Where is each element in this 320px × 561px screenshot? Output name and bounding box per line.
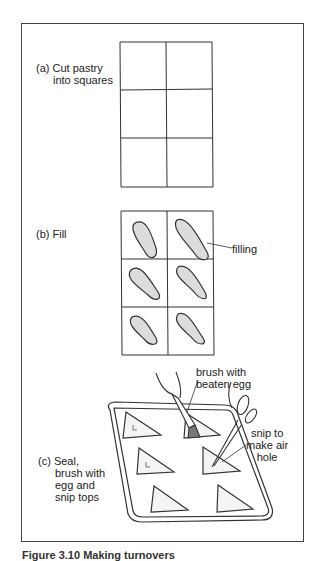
step-a-line2: into squares (36, 74, 113, 86)
snip-leader-line (222, 445, 246, 462)
step-c-line4: snip tops (38, 491, 105, 503)
snip-annotation: snip to make air hole (246, 427, 288, 463)
filling-annotation: filling (232, 243, 257, 255)
step-c-line2: brush with (38, 467, 105, 479)
step-c-line3: egg and (38, 479, 105, 491)
step-c-label: (c) Seal, brush with egg and snip tops (38, 455, 105, 503)
filling-leader-line (207, 243, 232, 248)
step-a-label: (a) Cut pastry into squares (36, 62, 113, 86)
figure-caption: Figure 3.10 Making turnovers (22, 549, 175, 561)
step-c-line1: (c) Seal, (38, 455, 105, 467)
step-a-line1: (a) Cut pastry (36, 62, 113, 74)
step-b-line1: (b) Fill (36, 228, 67, 240)
snip-line2: make air (246, 439, 288, 451)
filling-blobs (129, 219, 208, 344)
step-b-label: (b) Fill (36, 228, 67, 240)
brush-hand (156, 372, 200, 438)
pastry-squares-grid (120, 42, 213, 187)
brush-annotation: brush with beaten egg (196, 366, 251, 390)
brush-line1: brush with (196, 366, 251, 378)
snip-line3: hole (246, 451, 288, 463)
brush-line2: beaten egg (196, 378, 251, 390)
snip-line1: snip to (246, 427, 288, 439)
